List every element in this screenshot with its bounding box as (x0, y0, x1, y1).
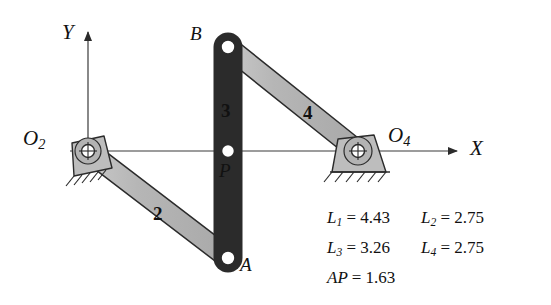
joint-b-label: B (190, 24, 202, 43)
axis-x-label: X (470, 138, 483, 159)
dimensions-row: L3 = 3.26L4 = 2.75 (327, 235, 484, 265)
dimension-l1: L1 = 4.43 (327, 205, 421, 235)
dimension-ap: AP = 1.63 (327, 265, 421, 290)
dimension-l2: L2 = 2.75 (421, 205, 484, 235)
link-4-body (228, 47, 358, 151)
joint-a (221, 251, 235, 265)
link-4-label: 4 (303, 103, 313, 122)
dimensions-table: L1 = 4.43L2 = 2.75 L3 = 3.26L4 = 2.75 AP… (327, 205, 484, 290)
dimensions-row: AP = 1.63 (327, 265, 484, 290)
joint-a-label: A (240, 255, 252, 274)
dimension-l3: L3 = 3.26 (327, 235, 421, 265)
ground-pivot-o2-label: O2 (23, 128, 45, 151)
ground-pivot-o2 (66, 136, 112, 186)
linkage-diagram: Y X O2 O4 B A P 2 3 4 L1 = 4.43L2 = 2.75… (0, 0, 551, 305)
joint-p (222, 145, 235, 158)
joint-b (221, 40, 235, 54)
joint-p-label: P (219, 161, 231, 180)
dimension-l4: L4 = 2.75 (421, 235, 484, 265)
link-3-label: 3 (221, 101, 231, 120)
dimensions-row: L1 = 4.43L2 = 2.75 (327, 205, 484, 235)
link-2-label: 2 (153, 204, 163, 223)
ground-pivot-o4-label: O4 (388, 125, 410, 148)
ground-hatch-o4 (324, 172, 386, 182)
axis-y-label: Y (62, 22, 74, 43)
